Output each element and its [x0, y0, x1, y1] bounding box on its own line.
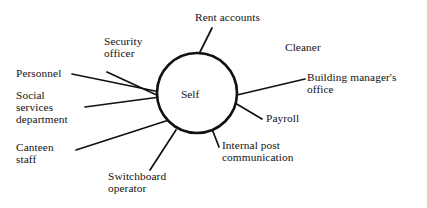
connector-line-canteen-staff	[76, 120, 169, 150]
connector-line-payroll	[235, 103, 262, 119]
node-label-line: Payroll	[266, 113, 299, 125]
node-label-personnel: Personnel	[16, 68, 61, 80]
center-node-label: Self	[181, 88, 199, 100]
connector-line-internal-post-communication	[212, 129, 219, 147]
node-label-line: Personnel	[16, 68, 61, 80]
node-label-canteen-staff: Canteenstaff	[16, 142, 54, 166]
node-label-line: operator	[108, 183, 166, 195]
node-label-line: officer	[104, 48, 142, 60]
connector-line-security-officer	[107, 72, 161, 97]
node-label-line: Rent accounts	[195, 12, 260, 24]
connector-line-building-managers-office	[237, 79, 305, 95]
node-label-line: department	[16, 114, 68, 126]
connector-line-social-services-department	[85, 97, 160, 107]
connector-line-rent-accounts	[199, 28, 212, 54]
node-label-line: communication	[222, 152, 294, 164]
node-label-social-services-department: Socialservicesdepartment	[16, 90, 68, 125]
connector-line-switchboard-operator	[150, 130, 176, 170]
node-label-line: office	[307, 84, 397, 96]
node-label-cleaner: Cleaner	[285, 42, 321, 54]
node-label-switchboard-operator: Switchboardoperator	[108, 171, 166, 195]
node-label-line: Cleaner	[285, 42, 321, 54]
node-label-line: services	[16, 102, 68, 114]
node-label-building-managers-office: Building manager'soffice	[307, 72, 397, 96]
node-label-security-officer: Securityofficer	[104, 36, 142, 60]
node-label-payroll: Payroll	[266, 113, 299, 125]
spider-diagram: Rent accountsSecurityofficerCleanerPerso…	[0, 0, 427, 208]
node-label-rent-accounts: Rent accounts	[195, 12, 260, 24]
node-label-line: staff	[16, 154, 54, 166]
node-label-internal-post-communication: Internal postcommunication	[222, 140, 294, 164]
